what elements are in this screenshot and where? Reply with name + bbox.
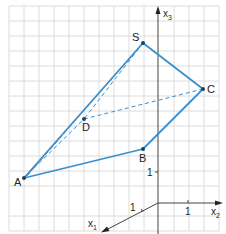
point-c xyxy=(201,87,205,91)
edge-c-b xyxy=(143,89,203,149)
x1-axis-label: x1 xyxy=(88,218,97,231)
label-c: C xyxy=(207,83,215,95)
point-a xyxy=(22,176,26,180)
x1-tick-label: 1 xyxy=(130,202,136,213)
label-b: B xyxy=(139,152,146,164)
label-d: D xyxy=(82,121,90,133)
point-b xyxy=(141,147,145,151)
grid xyxy=(9,6,219,231)
label-a: A xyxy=(14,176,22,188)
label-s: S xyxy=(132,31,139,43)
x3-axis-label: x3 xyxy=(163,8,172,21)
x1-arrow-icon xyxy=(101,227,110,233)
point-s xyxy=(141,41,145,45)
x3-tick-label: 1 xyxy=(147,167,153,178)
x3-arrow-icon xyxy=(156,6,161,14)
x2-tick-label: 1 xyxy=(185,206,191,217)
pyramid-diagram: S C B A D x3 x2 x1 1 1 1 xyxy=(0,0,226,234)
axes xyxy=(101,6,223,234)
